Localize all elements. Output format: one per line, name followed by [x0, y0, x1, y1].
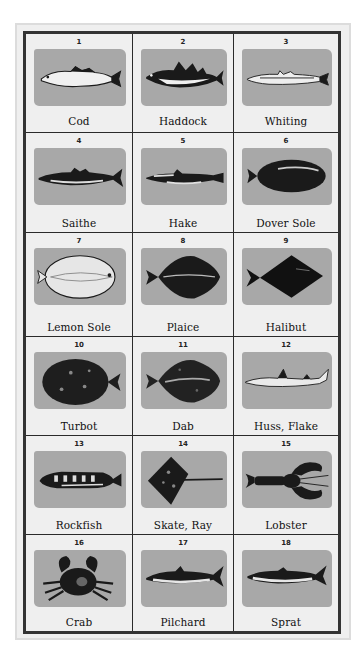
fish-name: Cod	[26, 115, 132, 127]
fish-number: 13	[26, 440, 132, 448]
turbot-fish-icon	[34, 352, 126, 409]
fish-number: 8	[133, 237, 233, 245]
fish-cell-skate-ray: 14 Skate, Ray	[133, 436, 234, 535]
fish-number: 4	[26, 137, 132, 145]
rockfish-fish-icon	[34, 451, 126, 508]
fish-number: 11	[133, 341, 233, 349]
fish-cell-hake: 5 Hake	[133, 133, 234, 233]
dover-sole-fish-icon	[242, 148, 332, 205]
huss-shark-icon	[242, 352, 332, 409]
plaice-fish-icon	[141, 248, 227, 305]
fish-name: Haddock	[133, 115, 233, 127]
fish-name: Whiting	[234, 115, 338, 127]
fish-number: 10	[26, 341, 132, 349]
fish-number: 17	[133, 539, 233, 547]
fish-cell-lemon-sole: 7 Lemon Sole	[26, 233, 133, 337]
fish-name: Lobster	[234, 519, 338, 531]
fish-name: Sprat	[234, 616, 338, 628]
hake-fish-icon	[141, 148, 227, 205]
cod-fish-icon	[34, 49, 126, 106]
sprat-fish-icon	[242, 550, 332, 607]
fish-cell-saithe: 4 Saithe	[26, 133, 133, 233]
fish-number: 15	[234, 440, 338, 448]
fish-number: 1	[26, 38, 132, 46]
fish-name: Crab	[26, 616, 132, 628]
fish-cell-halibut: 9 Halibut	[234, 233, 338, 337]
fish-name: Turbot	[26, 420, 132, 432]
fish-cell-dover-sole: 6 Dover Sole	[234, 133, 338, 233]
fish-number: 6	[234, 137, 338, 145]
fish-name: Skate, Ray	[133, 519, 233, 531]
fish-cell-sprat: 18 Sprat	[234, 535, 338, 631]
whiting-fish-icon	[242, 49, 332, 106]
fish-number: 7	[26, 237, 132, 245]
fish-name: Halibut	[234, 321, 338, 333]
fish-number: 14	[133, 440, 233, 448]
fish-cell-plaice: 8 Plaice	[133, 233, 234, 337]
fish-cell-haddock: 2 Haddock	[133, 34, 234, 133]
fish-name: Saithe	[26, 217, 132, 229]
fish-number: 2	[133, 38, 233, 46]
fish-name: Dover Sole	[234, 217, 338, 229]
fish-chart-grid: 1 Cod 2 Haddock 3 Whiting 4 Sa	[26, 34, 338, 631]
fish-number: 18	[234, 539, 338, 547]
fish-number: 3	[234, 38, 338, 46]
fish-cell-huss-flake: 12 Huss, Flake	[234, 337, 338, 436]
saithe-fish-icon	[34, 148, 126, 205]
fish-name: Huss, Flake	[234, 420, 338, 432]
fish-number: 16	[26, 539, 132, 547]
fish-cell-whiting: 3 Whiting	[234, 34, 338, 133]
halibut-fish-icon	[242, 248, 332, 305]
fish-name: Plaice	[133, 321, 233, 333]
fish-chart-grid-frame: 1 Cod 2 Haddock 3 Whiting 4 Sa	[23, 31, 341, 634]
lobster-icon	[242, 451, 332, 508]
crab-icon	[34, 550, 126, 607]
fish-cell-rockfish: 13 Rockfish	[26, 436, 133, 535]
fish-name: Hake	[133, 217, 233, 229]
fish-cell-crab: 16 Crab	[26, 535, 133, 631]
skate-ray-icon	[141, 451, 227, 508]
fish-number: 5	[133, 137, 233, 145]
fish-number: 9	[234, 237, 338, 245]
dab-fish-icon	[141, 352, 227, 409]
fish-name: Dab	[133, 420, 233, 432]
pilchard-fish-icon	[141, 550, 227, 607]
fish-cell-pilchard: 17 Pilchard	[133, 535, 234, 631]
fish-cell-cod: 1 Cod	[26, 34, 133, 133]
fish-number: 12	[234, 341, 338, 349]
haddock-fish-icon	[141, 49, 227, 106]
fish-cell-lobster: 15 Lobster	[234, 436, 338, 535]
fish-cell-turbot: 10 Turbot	[26, 337, 133, 436]
lemon-sole-fish-icon	[34, 248, 126, 305]
fish-name: Pilchard	[133, 616, 233, 628]
fish-cell-dab: 11 Dab	[133, 337, 234, 436]
fish-name: Rockfish	[26, 519, 132, 531]
fish-name: Lemon Sole	[26, 321, 132, 333]
